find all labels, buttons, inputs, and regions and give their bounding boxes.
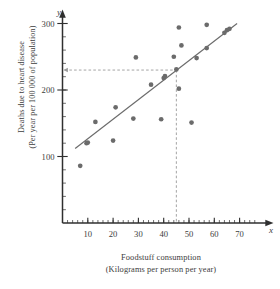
y-axis-label: Deaths due to heart disease (Per year pe… (16, 0, 38, 175)
data-point (174, 67, 179, 72)
x-axis-tick-label: 70 (235, 229, 244, 239)
y-axis-tick-label: 100 (42, 152, 55, 162)
data-point (179, 43, 184, 48)
x-axis-label-sub: (Kilograms per person per year) (106, 265, 217, 274)
x-axis-label: Foodstuff consumption (Kilograms per per… (42, 252, 280, 275)
y-axis-tick-label: 200 (42, 85, 55, 95)
x-axis-label-main: Foodstuff consumption (121, 253, 201, 262)
x-axis-tick-label: 40 (159, 229, 168, 239)
guide-arrow-icon (64, 68, 68, 72)
trend-line (75, 24, 237, 149)
data-point (149, 82, 154, 87)
x-axis-tick-label: 60 (210, 229, 219, 239)
y-axis-tick-label: 300 (42, 19, 55, 29)
x-axis-tick-label: 30 (134, 229, 143, 239)
data-point (177, 25, 182, 30)
data-point (204, 22, 209, 27)
x-axis-tick-label: 50 (185, 229, 194, 239)
scatter-chart-figure: yx10203040506070100200300 Deaths due to … (0, 0, 280, 289)
data-point (194, 56, 199, 61)
data-point (177, 86, 182, 91)
data-point (85, 140, 90, 145)
chart-canvas: yx10203040506070100200300 (0, 0, 280, 289)
x-axis-tick-label: 20 (109, 229, 118, 239)
data-point (111, 138, 116, 143)
data-point (93, 120, 98, 125)
y-axis-label-sub: (Per year per 100 000 of population) (28, 25, 37, 148)
data-point (227, 26, 232, 31)
data-point (134, 55, 139, 60)
data-point (189, 120, 194, 125)
y-axis-name: y (56, 7, 61, 17)
data-point (163, 74, 168, 79)
data-point (159, 117, 164, 122)
x-axis-tick-label: 10 (84, 229, 93, 239)
data-point (171, 54, 176, 59)
data-point (113, 105, 118, 110)
x-axis-name: x (268, 225, 273, 235)
data-point (78, 163, 83, 168)
y-axis-label-main: Deaths due to heart disease (17, 41, 26, 133)
data-point (131, 116, 136, 121)
data-point (204, 46, 209, 51)
